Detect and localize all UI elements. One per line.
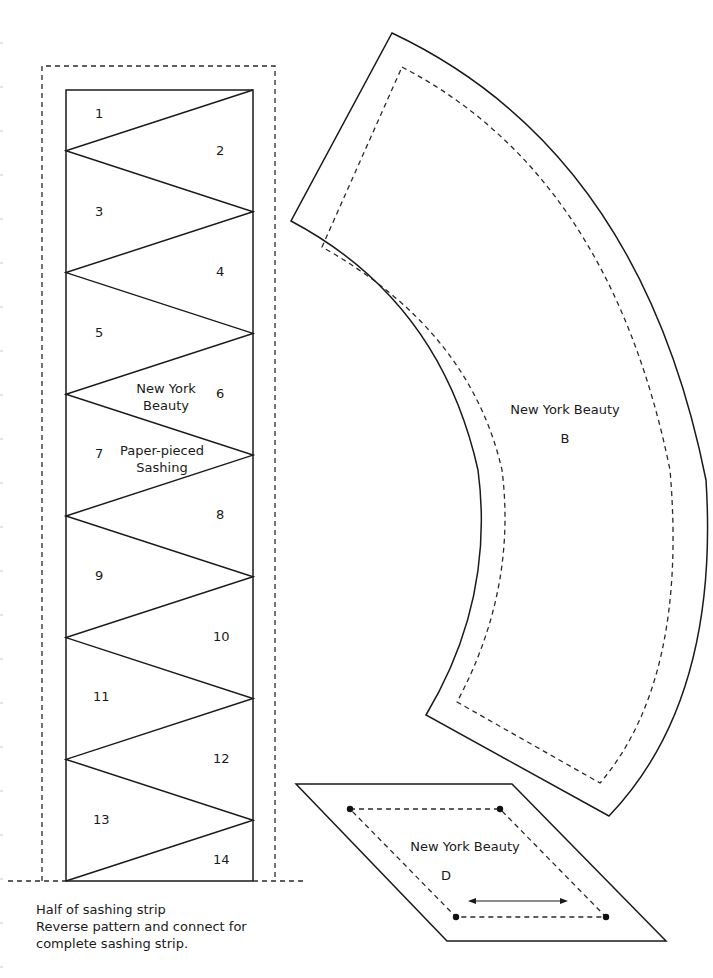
edge-mark: [0, 306, 3, 308]
edge-mark: [0, 86, 3, 88]
strip-title-line2: Beauty: [134, 399, 198, 412]
section-number-12: 12: [213, 752, 230, 765]
section-number-4: 4: [216, 265, 224, 278]
caption-line-1: Half of sashing strip: [36, 901, 247, 918]
caption-line-3: complete sashing strip.: [36, 935, 247, 952]
edge-mark: [0, 482, 3, 484]
section-number-7: 7: [95, 447, 103, 460]
section-number-2: 2: [216, 144, 224, 157]
section-number-10: 10: [213, 630, 230, 643]
edge-mark: [0, 658, 3, 660]
edge-mark: [0, 42, 3, 44]
edge-mark: [0, 350, 3, 352]
strip-subtitle-line2: Sashing: [112, 461, 212, 474]
section-number-11: 11: [93, 690, 110, 703]
piece-d-letter: D: [431, 869, 461, 882]
edge-mark: [0, 966, 3, 968]
strip-title-line1: New York: [134, 382, 198, 395]
piece-d-title: New York Beauty: [400, 840, 530, 853]
edge-mark: [0, 438, 3, 440]
piece-d-corner-dot: [497, 806, 503, 812]
piece-d-corner-dot: [453, 914, 459, 920]
edge-mark: [0, 130, 3, 132]
edge-mark: [0, 746, 3, 748]
edge-mark: [0, 834, 3, 836]
piece-b-title: New York Beauty: [500, 403, 630, 416]
edge-mark: [0, 878, 3, 880]
pattern-diagram: [0, 0, 713, 978]
section-number-9: 9: [95, 569, 103, 582]
piece-b-sewing-line: [322, 67, 673, 783]
piece-b-letter: B: [500, 432, 630, 445]
edge-mark: [0, 218, 3, 220]
section-number-14: 14: [213, 853, 230, 866]
edge-mark: [0, 262, 3, 264]
edge-mark: [0, 790, 3, 792]
grain-arrow-icon: [468, 898, 568, 904]
section-number-5: 5: [95, 326, 103, 339]
section-number-6: 6: [216, 387, 224, 400]
edge-mark: [0, 922, 3, 924]
section-number-1: 1: [95, 107, 103, 120]
edge-mark: [0, 174, 3, 176]
strip-subtitle-line1: Paper-pieced: [112, 444, 212, 457]
piece-b: [291, 33, 708, 816]
caption-line-2: Reverse pattern and connect for: [36, 918, 247, 935]
section-number-3: 3: [95, 205, 103, 218]
edge-mark: [0, 570, 3, 572]
strip-caption: Half of sashing strip Reverse pattern an…: [36, 901, 247, 952]
edge-mark: [0, 702, 3, 704]
section-number-8: 8: [216, 508, 224, 521]
section-number-13: 13: [93, 813, 110, 826]
edge-mark: [0, 526, 3, 528]
piece-d-corner-dot: [347, 806, 353, 812]
edge-mark: [0, 394, 3, 396]
piece-d: [296, 784, 666, 941]
edge-mark: [0, 614, 3, 616]
piece-b-cutting-line: [291, 33, 708, 816]
piece-d-corner-dot: [603, 914, 609, 920]
